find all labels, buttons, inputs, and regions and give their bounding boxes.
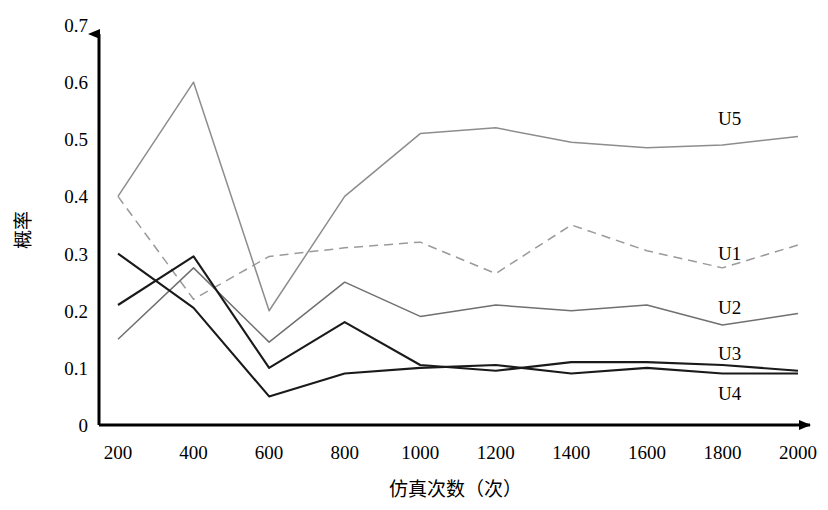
x-tick-label: 400 xyxy=(179,442,208,463)
y-axis-tick-labels: 00.10.20.30.40.50.60.7 xyxy=(64,15,88,436)
series-label-u3: U3 xyxy=(718,343,741,364)
x-tick-label: 200 xyxy=(104,442,133,463)
x-tick-label: 800 xyxy=(330,442,359,463)
x-axis-title: 仿真次数（次） xyxy=(389,478,522,500)
series-line-u3 xyxy=(118,256,798,370)
chart-figure: 00.10.20.30.40.50.60.7 20040060080010001… xyxy=(0,0,828,510)
x-tick-label: 1400 xyxy=(552,442,590,463)
series-label-u4: U4 xyxy=(718,383,742,404)
x-tick-label: 2000 xyxy=(779,442,817,463)
series-label-u1: U1 xyxy=(718,243,741,264)
x-tick-label: 1000 xyxy=(401,442,439,463)
y-axis-title: 概率 xyxy=(12,211,34,249)
series-line-u4 xyxy=(118,254,798,397)
x-tick-label: 600 xyxy=(255,442,284,463)
y-tick-label: 0.3 xyxy=(64,244,88,265)
series-line-u2 xyxy=(118,268,798,342)
series-label-u2: U2 xyxy=(718,297,741,318)
y-tick-label: 0.5 xyxy=(64,129,88,150)
y-tick-label: 0.2 xyxy=(64,301,88,322)
y-tick-label: 0.6 xyxy=(64,72,88,93)
y-tick-label: 0.7 xyxy=(64,15,88,36)
line-chart-canvas: 00.10.20.30.40.50.60.7 20040060080010001… xyxy=(0,0,828,510)
series-line-u1 xyxy=(118,196,798,299)
y-tick-label: 0.1 xyxy=(64,358,88,379)
x-tick-label: 1800 xyxy=(703,442,741,463)
series-label-u5: U5 xyxy=(718,108,741,129)
y-tick-label: 0 xyxy=(79,415,89,436)
x-tick-label: 1600 xyxy=(628,442,666,463)
series-labels-group: U1U2U3U4U5 xyxy=(718,108,742,403)
y-tick-label: 0.4 xyxy=(64,186,88,207)
series-line-u5 xyxy=(118,82,798,311)
x-tick-label: 1200 xyxy=(477,442,515,463)
x-axis-tick-labels: 200400600800100012001400160018002000 xyxy=(104,442,817,463)
series-lines-group xyxy=(118,82,798,396)
